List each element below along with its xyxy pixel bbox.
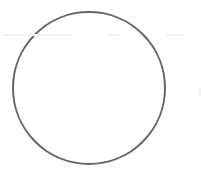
faint-artifact-line xyxy=(165,34,185,36)
faint-artifact-mark xyxy=(199,88,201,96)
faint-artifact-line xyxy=(2,34,72,36)
faint-artifact-line xyxy=(108,34,120,36)
diagram-canvas xyxy=(0,0,201,176)
diagram-svg xyxy=(0,0,201,176)
